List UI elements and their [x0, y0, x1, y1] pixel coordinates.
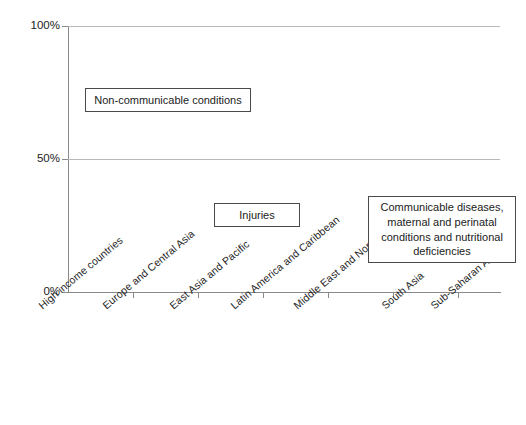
legend-callout-non-communicable-text: Non-communicable conditions: [94, 93, 241, 108]
x-tick-mark-1: [198, 292, 199, 298]
x-tick-mark-5: [458, 292, 459, 298]
legend-callout-injuries: Injuries: [214, 203, 300, 227]
legend-callout-communicable-line-4: deficiencies: [381, 244, 504, 259]
gridline-50: [68, 159, 500, 160]
y-axis-labels: 100% 50% 0%: [0, 0, 68, 425]
gridline-100: [68, 26, 500, 27]
legend-callout-communicable-text: Communicable diseases, maternal and peri…: [381, 200, 504, 259]
legend-callout-communicable-line-1: Communicable diseases,: [381, 200, 504, 215]
stacked-bar-chart: 100% 50% 0%: [0, 0, 526, 425]
legend-callout-non-communicable: Non-communicable conditions: [85, 88, 251, 112]
legend-callout-communicable: Communicable diseases, maternal and peri…: [368, 196, 516, 263]
legend-callout-communicable-line-3: conditions and nutritional: [381, 230, 504, 245]
x-tick-mark-0: [133, 292, 134, 298]
x-tick-mark-2: [263, 292, 264, 298]
legend-callout-communicable-line-2: maternal and perinatal: [381, 215, 504, 230]
legend-callout-injuries-text: Injuries: [239, 208, 274, 223]
x-tick-mark-3: [328, 292, 329, 298]
y-tick-label-100: 100%: [0, 19, 60, 31]
y-tick-label-50: 50%: [0, 152, 60, 164]
